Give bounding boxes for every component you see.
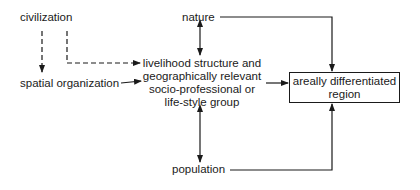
node-livelihood-line-3: socio-professional or	[138, 83, 266, 96]
node-population: population	[172, 163, 225, 176]
node-livelihood-line-4: life-style group	[138, 96, 266, 109]
node-region-line-2: region	[290, 88, 399, 101]
node-civilization: civilization	[20, 11, 72, 24]
node-livelihood-line-2: geographically relevant	[138, 70, 266, 83]
node-livelihood-line-1: livelihood structure and	[138, 57, 266, 70]
node-region-line-1: areally differentiated	[290, 75, 399, 88]
edge-civilization-to-livelihood	[67, 31, 140, 63]
edge-population-to-region	[230, 104, 332, 170]
node-nature: nature	[182, 11, 215, 24]
node-livelihood-group: livelihood structure and geographically …	[138, 57, 266, 109]
node-spatial-organization: spatial organization	[20, 77, 119, 90]
node-areally-differentiated-region: areally differentiated region	[289, 72, 400, 103]
